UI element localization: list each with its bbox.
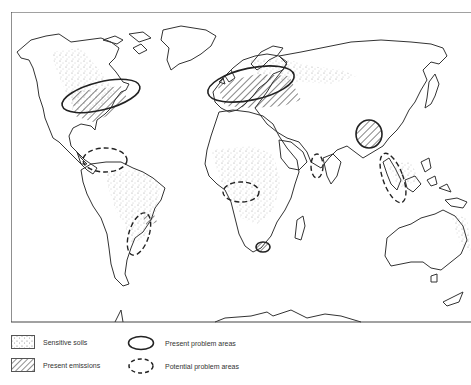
solid-ellipse-icon — [127, 335, 155, 351]
map-legend: Sensitive soils Present emissions Presen… — [0, 330, 461, 385]
legend-label: Present emissions — [43, 362, 100, 369]
stipple-swatch-icon — [11, 335, 35, 349]
madagascar — [295, 216, 305, 240]
legend-item-potential-problem: Potential problem areas — [127, 357, 239, 375]
new-zealand — [443, 292, 463, 306]
legend-item-sensitive-soils: Sensitive soils — [11, 335, 87, 349]
legend-label: Present problem areas — [165, 340, 236, 347]
arctic-islands — [103, 32, 151, 54]
tasmania — [431, 274, 437, 282]
legend-item-present-emissions: Present emissions — [11, 358, 100, 372]
legend-item-present-problem: Present problem areas — [127, 335, 236, 351]
antarctica — [115, 310, 361, 322]
india — [323, 154, 341, 184]
new-guinea — [445, 198, 467, 208]
map-svg — [11, 12, 471, 332]
world-map — [11, 12, 471, 322]
legend-label: Potential problem areas — [165, 363, 239, 370]
hatch-swatch-icon — [11, 358, 35, 372]
greenland — [161, 26, 216, 70]
dashed-ellipse-icon — [127, 357, 155, 375]
legend-label: Sensitive soils — [43, 339, 87, 346]
